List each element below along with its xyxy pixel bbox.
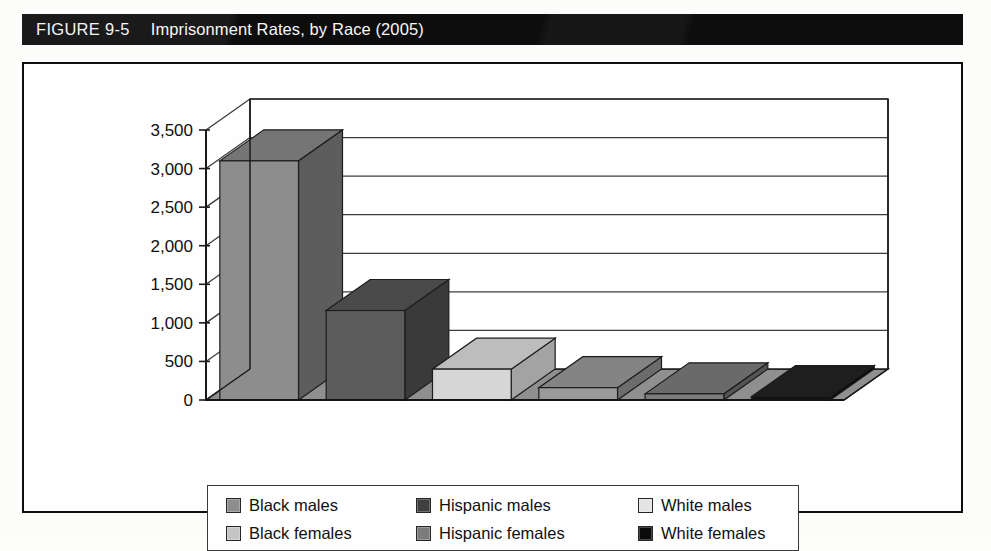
legend-swatch-icon xyxy=(226,498,241,513)
figure-number-label: FIGURE 9-5 xyxy=(36,20,130,39)
bar-1[interactable] xyxy=(220,130,343,400)
y-axis-tick-label: 1,000 xyxy=(150,314,193,333)
bar-front-face xyxy=(645,394,724,400)
bar-front-face xyxy=(220,161,299,400)
y-axis-tick-label: 2,000 xyxy=(150,237,193,256)
figure-title-row: FIGURE 9-5 Imprisonment Rates, by Race (… xyxy=(36,14,424,45)
figure-title-bar: FIGURE 9-5 Imprisonment Rates, by Race (… xyxy=(22,14,963,45)
legend-item-white-males[interactable]: White males xyxy=(612,496,800,515)
legend-label: Hispanic males xyxy=(439,496,551,515)
y-axis-tick-label: 0 xyxy=(184,391,193,410)
legend-item-black-females[interactable]: Black females xyxy=(208,524,404,543)
y-axis-tick-label: 500 xyxy=(165,352,193,371)
legend-swatch-icon xyxy=(416,498,431,513)
legend-label: Black females xyxy=(249,524,352,543)
figure-frame: 05001,0001,5002,0002,5003,0003,500 Black… xyxy=(22,62,963,513)
figure-title-text: Imprisonment Rates, by Race (2005) xyxy=(151,20,424,39)
legend-item-white-females[interactable]: White females xyxy=(612,524,800,543)
bar-front-face xyxy=(539,388,618,400)
y-axis-tick-label: 3,000 xyxy=(150,160,193,179)
legend-label: Hispanic females xyxy=(439,524,565,543)
legend-item-hispanic-females[interactable]: Hispanic females xyxy=(404,524,612,543)
bar-front-face xyxy=(432,369,511,400)
chart-svg: 05001,0001,5002,0002,5003,0003,500 xyxy=(24,64,965,515)
legend-swatch-icon xyxy=(416,526,431,541)
y-axis-tick-label: 3,500 xyxy=(150,121,193,140)
y-axis-tick-label: 2,500 xyxy=(150,198,193,217)
bar-front-face xyxy=(326,311,405,400)
chart-ytick-labels-group: 05001,0001,5002,0002,5003,0003,500 xyxy=(150,121,193,410)
legend-label: White males xyxy=(661,496,752,515)
legend-label: Black males xyxy=(249,496,338,515)
bar-2[interactable] xyxy=(326,280,449,400)
y-axis-tick-label: 1,500 xyxy=(150,275,193,294)
legend-item-black-males[interactable]: Black males xyxy=(208,496,404,515)
legend-swatch-icon xyxy=(638,498,653,513)
bar-chart-3d: 05001,0001,5002,0002,5003,0003,500 xyxy=(24,64,965,515)
legend-label: White females xyxy=(661,524,766,543)
legend-item-hispanic-males[interactable]: Hispanic males xyxy=(404,496,612,515)
legend-grid: Black males Hispanic males White males B… xyxy=(208,491,798,547)
legend-swatch-icon xyxy=(226,526,241,541)
legend-swatch-icon xyxy=(638,526,653,541)
chart-legend: Black males Hispanic males White males B… xyxy=(207,485,799,551)
